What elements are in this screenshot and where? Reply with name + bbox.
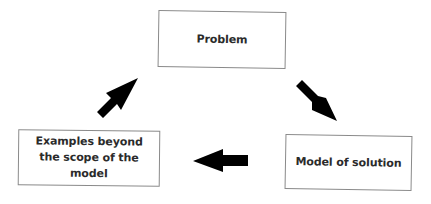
arrow-left-icon: [193, 149, 248, 172]
arrow-up-right-icon: [97, 78, 138, 118]
arrows-layer: [0, 0, 431, 204]
arrow-down-right-icon: [296, 80, 337, 121]
